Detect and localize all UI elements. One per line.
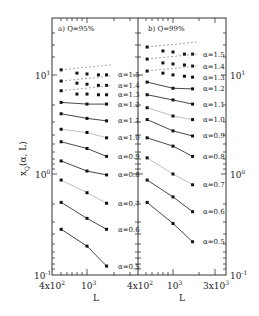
data-point — [60, 140, 63, 143]
svg-text:10-1: 10-1 — [230, 269, 247, 281]
series-label: α=1.4 — [118, 82, 140, 90]
panel-a-label: a) Q=95% — [58, 25, 95, 33]
data-point — [86, 117, 89, 120]
series-label: α=0.6 — [203, 208, 225, 216]
x-axis-title-a: L — [93, 293, 99, 303]
svg-text:3x103: 3x103 — [203, 279, 229, 291]
svg-text:10-1: 10-1 — [34, 269, 51, 281]
data-point — [172, 145, 175, 148]
data-point — [105, 73, 108, 76]
data-point — [105, 173, 108, 176]
y-axis-title: xQ(α, L) — [18, 141, 30, 176]
data-point — [105, 202, 108, 205]
series-label: α=0.7 — [203, 181, 225, 189]
data-point — [172, 98, 175, 101]
data-point — [191, 76, 194, 79]
data-point — [172, 62, 175, 65]
data-point — [60, 89, 63, 92]
data-point — [60, 228, 63, 231]
data-point — [191, 134, 194, 137]
data-point — [191, 240, 194, 243]
panel-b-label: b) Q=99% — [148, 25, 185, 33]
svg-text:103: 103 — [167, 279, 182, 291]
panel-b-series — [146, 42, 197, 243]
data-point — [105, 93, 108, 96]
data-point — [60, 179, 63, 182]
series-label: α=1.5 — [203, 51, 225, 59]
data-point — [86, 245, 89, 248]
data-point — [172, 87, 175, 90]
series-label: α=0.5 — [118, 263, 140, 271]
data-point — [97, 93, 100, 96]
data-point — [191, 210, 194, 213]
data-point — [146, 58, 149, 61]
y-tick-labels-left: 101 100 10-1 — [34, 69, 51, 281]
svg-text:100: 100 — [230, 168, 245, 180]
data-point — [105, 103, 108, 106]
data-point — [146, 93, 149, 96]
data-point — [172, 50, 175, 53]
svg-text:4x102: 4x102 — [127, 279, 153, 291]
data-point — [172, 173, 175, 176]
y-axis-ticks-left — [52, 33, 57, 269]
chart: a) Q=95% b) Q=99% 101 100 10-1 101 100 1… — [0, 0, 259, 316]
data-point — [105, 119, 108, 122]
data-point — [105, 265, 108, 268]
series-label: α=0.9 — [118, 153, 140, 161]
series-label: α=1.1 — [203, 101, 225, 109]
data-point — [60, 101, 63, 104]
data-point — [161, 72, 164, 75]
data-point — [86, 191, 89, 194]
data-point — [86, 217, 89, 220]
data-point — [146, 201, 149, 204]
data-point — [86, 103, 89, 106]
svg-text:101: 101 — [230, 69, 245, 81]
data-point — [146, 81, 149, 84]
series-label: α=0.5 — [203, 238, 225, 246]
data-point — [191, 183, 194, 186]
data-point — [97, 84, 100, 87]
data-point — [86, 131, 89, 134]
data-point — [105, 155, 108, 158]
svg-text:100: 100 — [35, 168, 50, 180]
series-label: α=1.2 — [203, 85, 225, 93]
data-point — [97, 73, 100, 76]
data-point — [60, 112, 63, 115]
panel-b-series-labels: α=1.5α=1.4α=1.3α=1.2α=1.1α=1.0α=0.9α=0.8… — [203, 51, 225, 247]
series-label: α=0.8 — [118, 171, 140, 179]
data-point — [172, 73, 175, 76]
panel-a-series — [60, 65, 111, 268]
data-point — [60, 159, 63, 162]
data-point — [191, 103, 194, 106]
data-point — [191, 53, 194, 56]
data-point — [183, 64, 186, 67]
series-label: α=1.4 — [203, 63, 225, 71]
series-label: α=0.9 — [203, 132, 225, 140]
data-point — [75, 82, 78, 85]
data-point — [146, 136, 149, 139]
data-point — [161, 49, 164, 52]
data-point — [60, 80, 63, 83]
x-tick-labels: 4x102 103 4x102 103 3x103 — [39, 279, 229, 291]
data-point — [60, 128, 63, 131]
data-point — [172, 115, 175, 118]
series-label: α=0.8 — [203, 153, 225, 161]
data-point — [161, 61, 164, 64]
data-point — [191, 155, 194, 158]
series-label: α=1.5 — [118, 71, 140, 79]
series-label: α=1.3 — [203, 74, 225, 82]
data-point — [146, 156, 149, 159]
data-point — [172, 129, 175, 132]
data-point — [105, 228, 108, 231]
data-point — [86, 93, 89, 96]
data-point — [60, 68, 63, 71]
data-point — [191, 87, 194, 90]
data-point — [75, 72, 78, 75]
svg-text:103: 103 — [81, 279, 96, 291]
series-label: α=1.3 — [118, 91, 140, 99]
series-label: α=1.0 — [203, 116, 225, 124]
data-point — [146, 179, 149, 182]
series-label: α=1.2 — [118, 101, 140, 109]
series-label: α=0.6 — [118, 226, 140, 234]
data-point — [172, 222, 175, 225]
